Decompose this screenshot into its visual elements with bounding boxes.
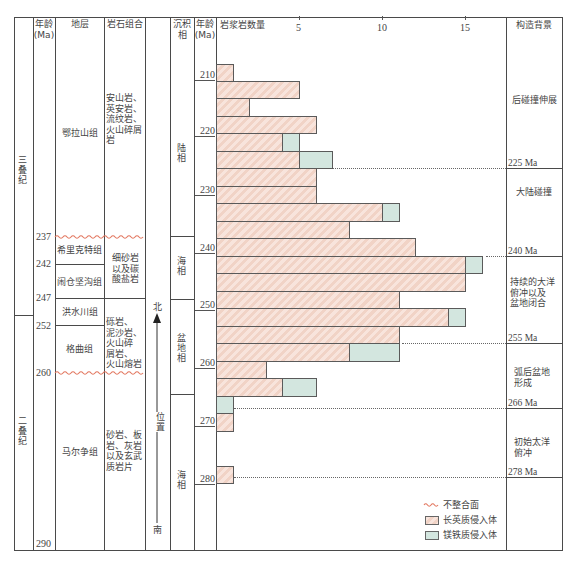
col-border-period (33, 17, 34, 550)
bar-mafic (282, 378, 316, 396)
facies-boundary-3 (170, 394, 194, 395)
tectonic-line-225 (506, 168, 562, 169)
tectonic-continental-collision: 大陆碰撞 (506, 187, 562, 198)
boundary-252 (55, 325, 104, 326)
bar-felsic (216, 413, 234, 431)
bar-mafic (448, 308, 466, 326)
age-mark-290: 290 (36, 538, 51, 549)
position-label: 位置 (155, 412, 166, 432)
header-age-right: 年龄 (Ma) (194, 19, 216, 40)
header-age-left: 年龄 (Ma) (33, 19, 55, 40)
bar-felsic (216, 326, 400, 344)
bar-felsic (216, 378, 283, 396)
x-tick-label-15: 15 (460, 22, 470, 33)
boundary-label-255: 255 Ma (508, 333, 537, 343)
legend-label-felsic: 长英质侵入体 (443, 515, 497, 525)
unconformity-237 (55, 234, 145, 240)
bar-felsic (216, 116, 317, 134)
bar-felsic (216, 466, 234, 484)
bar-felsic (216, 343, 350, 361)
bar-felsic (216, 308, 449, 326)
col-border-position (170, 17, 171, 550)
facies-continental: 陆相 (176, 143, 187, 163)
x-tick-label-5: 5 (296, 22, 301, 33)
guide-225 (333, 168, 506, 169)
unconformity-260 (55, 370, 145, 376)
age-mark-247: 247 (36, 292, 51, 303)
boundary-label-240: 240 Ma (508, 246, 537, 256)
facies-boundary-2 (170, 299, 194, 300)
formation-maerzheng: 马尔争组 (55, 447, 104, 458)
col-border-left (14, 17, 15, 550)
bar-felsic (216, 81, 300, 99)
bar-mafic (282, 133, 300, 151)
formation-gequ: 格曲组 (55, 344, 104, 355)
guide-278 (234, 477, 506, 478)
y-tick-240: 240 (195, 243, 215, 254)
age-mark-252: 252 (36, 320, 51, 331)
col-border-strata (104, 17, 105, 550)
bar-felsic (216, 151, 300, 169)
top-border (14, 17, 563, 18)
bar-felsic (216, 221, 350, 239)
age-mark-260: 260 (36, 367, 51, 378)
boundary-label-266: 266 Ma (508, 398, 537, 408)
legend-mafic-swatch (425, 531, 439, 540)
legend-wavy-line-icon (424, 502, 438, 508)
age-mark-237: 237 (36, 231, 51, 242)
position-north: 北 (150, 302, 164, 313)
formation-hongshuichuan: 洪水川组 (55, 307, 104, 318)
formation-naocangjiangou: 闹仓坚沟组 (55, 277, 104, 288)
facies-marine-lower: 海相 (176, 470, 187, 490)
position-south: 南 (150, 525, 164, 536)
boundary-247 (55, 298, 145, 299)
boundary-242 (55, 264, 104, 265)
bar-mafic (349, 343, 400, 361)
lithology-sandstone-carbonate: 细砂岩 以及碳 酸盐岩 (106, 253, 144, 285)
bar-felsic (216, 168, 317, 186)
bar-mafic (465, 256, 483, 274)
lithology-sandstone-slate: 砂岩、板 岩、灰岩 以及玄武 质岩片 (106, 430, 144, 472)
tectonic-ongoing-subduction: 持续的大洋 俯冲以及 盆地闭合 (506, 277, 562, 309)
y-tick-230: 230 (195, 185, 215, 196)
facies-basin: 盆地相 (176, 333, 187, 363)
bar-felsic (216, 273, 466, 291)
stratigraphic-magmatism-figure: 年龄 (Ma) 地层 岩石组合 沉积 相 年龄 (Ma) 岩浆岩数量 构造背景 … (0, 0, 572, 562)
col-border-right (562, 17, 563, 550)
y-tick-280: 280 (195, 474, 215, 485)
header-tectonic: 构造背景 (506, 20, 562, 31)
bar-felsic (216, 291, 400, 309)
bottom-border (14, 550, 563, 551)
header-strata: 地层 (55, 19, 104, 30)
legend-label-mafic: 镁铁质侵入体 (443, 530, 497, 540)
period-boundary (14, 315, 33, 316)
lithology-volcanic: 安山岩、 英安岩、 流纹岩、 火山碎屑 岩 (106, 93, 144, 146)
facies-marine-upper: 海相 (176, 256, 187, 276)
y-tick-260: 260 (195, 358, 215, 369)
y-tick-270: 270 (195, 416, 215, 427)
header-facies: 沉积 相 (170, 19, 194, 40)
period-permian: 二叠纪 (17, 416, 28, 446)
y-tick-220: 220 (195, 126, 215, 137)
legend-label-unconformity: 不整合面 (443, 500, 479, 510)
bar-felsic (216, 64, 234, 82)
bar-felsic (216, 98, 250, 116)
guide-255 (402, 343, 506, 344)
boundary-label-225: 225 Ma (508, 158, 537, 168)
lithology-conglomerate-volcanic: 砾岩、 泥沙岩、 火山碎 屑岩、 火山熔岩 (106, 317, 146, 370)
facies-boundary-1 (170, 236, 194, 237)
header-lithology: 岩石组合 (104, 19, 145, 30)
bar-mafic (299, 151, 333, 169)
boundary-label-278: 278 Ma (508, 467, 537, 477)
tectonic-post-collision-extension: 后碰撞伸展 (506, 95, 562, 106)
bar-felsic (216, 186, 317, 204)
y-tick-210: 210 (195, 70, 215, 81)
x-tick-label-10: 10 (377, 22, 387, 33)
col-border-facies (194, 17, 195, 550)
tectonic-line-240 (506, 256, 562, 257)
col-border-lithology (145, 17, 146, 550)
guide-240 (486, 256, 506, 257)
tectonic-line-278 (506, 477, 562, 478)
bar-felsic (216, 238, 416, 256)
x-tick-15 (465, 16, 466, 20)
